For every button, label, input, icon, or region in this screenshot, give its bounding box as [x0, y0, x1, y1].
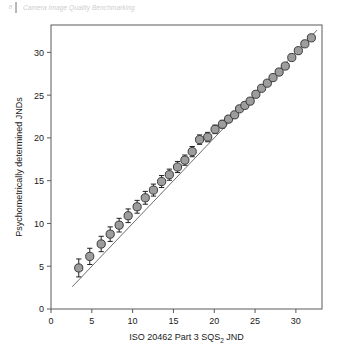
data-point — [165, 171, 173, 179]
x-axis-ticks-group: 051015202530 — [48, 309, 300, 326]
data-point — [301, 40, 309, 48]
data-point — [86, 252, 94, 260]
x-tick-label: 5 — [89, 316, 94, 326]
header-title: Camera Image Quality Benchmarking — [23, 4, 135, 11]
data-point — [149, 186, 157, 194]
x-tick-label: 20 — [209, 316, 219, 326]
data-point — [133, 203, 141, 211]
x-tick-label: 0 — [48, 316, 53, 326]
data-point — [115, 221, 123, 229]
plot-canvas: 051015202530 051015202530 ISO 20462 Part… — [0, 14, 339, 353]
data-point — [188, 148, 196, 156]
data-point — [294, 47, 302, 55]
y-tick-label: 10 — [34, 219, 44, 229]
header-rule — [15, 2, 17, 13]
data-point — [181, 156, 189, 164]
page-number: 8 — [2, 4, 12, 10]
y-axis-ticks-group: 051015202530 — [34, 48, 51, 315]
y-tick-label: 15 — [34, 176, 44, 186]
data-point — [211, 125, 219, 133]
data-points-group — [75, 34, 316, 272]
x-tick-label: 10 — [128, 316, 138, 326]
data-point — [97, 240, 105, 248]
data-point — [124, 212, 132, 220]
data-point — [173, 163, 181, 171]
data-point — [158, 177, 166, 185]
x-tick-label: 15 — [168, 316, 178, 326]
data-point — [141, 194, 149, 202]
y-axis-title: Psychometrically determined JNDs — [14, 97, 24, 237]
x-tick-label: 25 — [250, 316, 260, 326]
data-point — [307, 34, 315, 42]
data-point — [195, 136, 203, 144]
y-tick-label: 25 — [34, 91, 44, 101]
y-tick-label: 0 — [39, 304, 44, 314]
y-tick-label: 5 — [39, 262, 44, 272]
y-tick-label: 20 — [34, 133, 44, 143]
data-point — [106, 230, 114, 238]
data-point — [281, 62, 289, 70]
data-point — [246, 97, 254, 105]
page-header: 8 Camera Image Quality Benchmarking — [0, 0, 339, 14]
x-axis-title: ISO 20462 Part 3 SQS2 JND — [129, 332, 244, 344]
figure-scatter-plot: 051015202530 051015202530 ISO 20462 Part… — [0, 14, 339, 353]
data-point — [204, 133, 212, 141]
y-tick-label: 30 — [34, 48, 44, 58]
data-point — [288, 53, 296, 61]
x-tick-label: 30 — [291, 316, 301, 326]
data-point — [75, 264, 83, 272]
